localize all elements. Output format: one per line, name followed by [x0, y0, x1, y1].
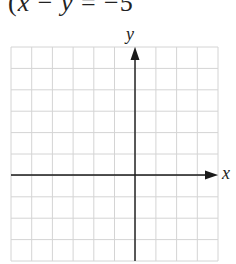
y-axis-label: y [126, 24, 134, 45]
coordinate-grid [0, 0, 236, 264]
x-axis-label: x [222, 163, 230, 184]
grid-lines [11, 47, 218, 261]
y-axis-arrow-icon [131, 47, 140, 60]
x-axis-arrow-icon [205, 171, 218, 180]
